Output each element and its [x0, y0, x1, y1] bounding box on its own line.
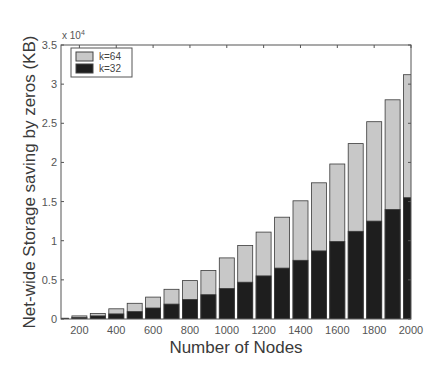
bar-k32-1700: [348, 231, 363, 319]
bar-k32-800: [182, 299, 197, 319]
bar-k32-600: [146, 308, 161, 319]
y-axis-label: Net-wide Storage saving by zeros (KB): [20, 36, 40, 329]
multiplier-exponent: 4: [81, 29, 85, 36]
legend-label-k64: k=64: [99, 51, 121, 62]
bar-chart: 00.511.522.533.5 20040060080010001200140…: [0, 0, 440, 374]
bars-group: [54, 75, 419, 319]
y-tick-label: 2.5: [42, 117, 57, 129]
x-tick-label: 1200: [251, 324, 275, 336]
y-tick-label: 0.5: [42, 274, 57, 286]
y-tick-label: 0: [51, 313, 57, 325]
x-tick-label: 400: [107, 324, 125, 336]
x-tick-label: 200: [70, 324, 88, 336]
legend-swatch-k32: [76, 64, 93, 73]
multiplier-base: x 10: [62, 30, 81, 41]
y-tick-label: 1: [51, 235, 57, 247]
bar-k32-1400: [293, 260, 308, 319]
y-tick-label: 3.5: [42, 39, 57, 51]
legend-swatch-k64: [76, 52, 93, 61]
x-axis-label: Number of Nodes: [169, 338, 302, 358]
x-tick-label: 2000: [399, 324, 423, 336]
y-axis-multiplier: x 104: [62, 29, 85, 41]
x-tick-label: 1600: [325, 324, 349, 336]
y-tick-label: 2: [51, 156, 57, 168]
x-tick-label: 1400: [288, 324, 312, 336]
bar-k32-1000: [219, 289, 234, 320]
x-tick-label: 600: [144, 324, 162, 336]
bar-k32-500: [127, 312, 142, 319]
bar-k32-1600: [330, 242, 345, 320]
x-tick-label: 800: [181, 324, 199, 336]
x-tick-label: 1000: [215, 324, 239, 336]
bar-k32-1500: [311, 251, 326, 319]
bar-k32-1900: [385, 209, 400, 319]
bar-k32-400: [109, 314, 124, 319]
bar-k32-1800: [367, 221, 382, 319]
bar-k32-1300: [275, 268, 290, 319]
legend: k=64 k=32: [71, 48, 132, 77]
legend-label-k32: k=32: [99, 63, 121, 74]
bar-k32-1100: [238, 282, 253, 319]
y-tick-label: 3: [51, 78, 57, 90]
x-tick-label: 1800: [362, 324, 386, 336]
bar-k32-700: [164, 304, 179, 319]
bar-k32-900: [201, 295, 216, 319]
y-tick-label: 1.5: [42, 196, 57, 208]
bar-k32-1200: [256, 276, 271, 319]
